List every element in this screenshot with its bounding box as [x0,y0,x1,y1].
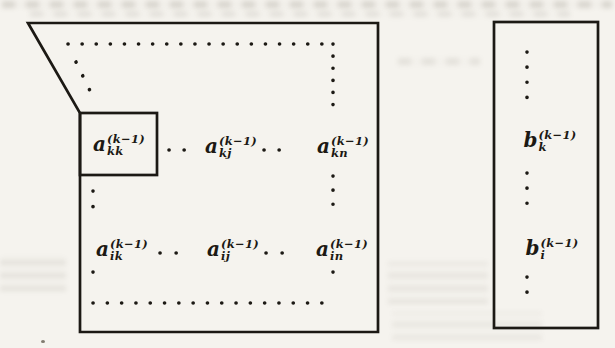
entry-superscript: (k−1) [540,238,578,250]
entry-base: a [93,134,106,154]
entry-subscript: kn [331,148,348,160]
entry-subscript: i [540,250,545,262]
entry-subscript: ik [110,251,123,263]
matrix-entry-a-kj: a(k−1)kj [205,134,257,157]
entry-base: a [317,136,330,156]
matrix-entry-a-kk: a(k−1)kk [93,132,145,155]
matrix-entry-a-kn: a(k−1)kn [317,134,369,157]
entry-base: b [526,238,540,258]
gaussian-elimination-figure [0,0,615,348]
entry-subscript: k [538,142,546,154]
entry-subscript: kk [107,146,124,158]
entry-base: a [96,239,109,259]
vector-entry-b-k: b(k−1)k [524,128,577,151]
matrix-entry-a-in: a(k−1)in [316,237,368,260]
entry-base: a [205,136,218,156]
entry-base: b [524,130,538,150]
matrix-entry-a-ik: a(k−1)ik [96,237,148,260]
scanned-textbook-figure: a(k−1)kk a(k−1)kj a(k−1)kn a(k−1)ik a(k−… [0,0,615,348]
entry-subscript: kj [219,148,232,160]
entry-base: a [316,239,329,259]
entry-base: a [207,239,220,259]
rhs-vector-outline [494,22,598,328]
entry-subscript: in [330,251,343,263]
dots-diagonal [76,62,96,103]
matrix-entry-a-ij: a(k−1)ij [207,237,259,260]
entry-subscript: ij [221,251,230,263]
coefficient-matrix-outline [28,23,378,332]
vector-entry-b-i: b(k−1)i [526,236,579,259]
